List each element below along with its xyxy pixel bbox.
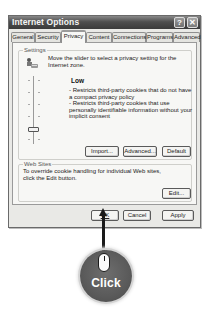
edit-button[interactable]: Edit... (162, 188, 191, 199)
window-title: Internet Options (12, 17, 79, 27)
tab-programs[interactable]: Programs (146, 32, 173, 42)
import-button[interactable]: Import... (85, 146, 119, 157)
tab-privacy[interactable]: Privacy (61, 30, 86, 43)
click-label: Click (80, 276, 132, 290)
slider-tick (38, 92, 40, 93)
slider-tick (38, 80, 40, 81)
callout-arrow (102, 214, 105, 254)
level-bullet: - Restricts third-party cookies that do … (69, 87, 193, 100)
help-button[interactable]: ? (174, 17, 185, 28)
privacy-level-title: Low (71, 77, 84, 84)
advanced-button[interactable]: Advanced... (123, 146, 157, 157)
tab-general[interactable]: General (11, 32, 35, 42)
tab-advanced[interactable]: Advanced (173, 32, 200, 42)
privacy-panel: Settings Move the slider to select a pri… (12, 42, 197, 205)
slider-tick (28, 139, 30, 140)
slider-tick (28, 92, 30, 93)
mouse-icon (98, 253, 110, 272)
privacy-intro-text: Move the slider to select a privacy sett… (48, 55, 188, 69)
slider-tick (28, 80, 30, 81)
default-button[interactable]: Default (162, 146, 191, 157)
privacy-level-slider[interactable] (27, 76, 41, 144)
apply-button[interactable]: Apply (162, 210, 194, 221)
tab-connections[interactable]: Connections (112, 32, 146, 42)
slider-tick (38, 116, 40, 117)
slider-tick (38, 104, 40, 105)
cancel-button[interactable]: Cancel (123, 210, 151, 221)
close-button[interactable]: ✕ (187, 17, 198, 28)
slider-thumb[interactable] (28, 127, 39, 132)
slider-tick (38, 139, 40, 140)
level-bullet: - Restricts third-party cookies that use… (69, 100, 193, 120)
tab-security[interactable]: Security (35, 32, 61, 42)
internet-options-dialog: Internet Options ? ✕ General Security Pr… (8, 15, 201, 228)
tab-strip: General Security Privacy Content Connect… (11, 31, 199, 42)
tab-content[interactable]: Content (86, 32, 112, 42)
web-sites-group-label: Web Sites (23, 161, 52, 168)
privacy-level-description: - Restricts third-party cookies that do … (69, 87, 193, 120)
slider-tick (28, 116, 30, 117)
settings-group: Settings Move the slider to select a pri… (18, 50, 192, 160)
web-sites-group: Web Sites To override cookie handling fo… (18, 164, 192, 202)
settings-group-label: Settings (23, 47, 47, 54)
slider-track (33, 76, 34, 144)
web-sites-text: To override cookie handling for individu… (23, 168, 173, 182)
privacy-settings-icon (25, 57, 39, 69)
slider-tick (28, 104, 30, 105)
title-bar[interactable]: Internet Options ? ✕ (9, 16, 200, 29)
